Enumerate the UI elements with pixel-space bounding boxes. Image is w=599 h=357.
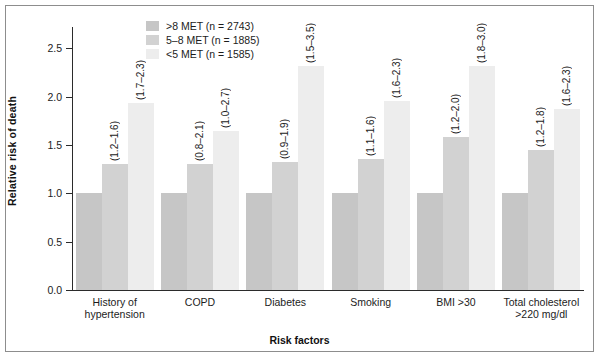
bar[interactable]: (1.2–2.0) <box>443 137 469 290</box>
category-label-line: Total cholesterol <box>499 296 584 308</box>
bar[interactable] <box>502 193 528 290</box>
confidence-interval-label: (0.8–2.1) <box>195 121 205 161</box>
bar[interactable]: (1.7–2.3) <box>128 103 154 290</box>
bar[interactable]: (1.5–3.5) <box>298 66 324 290</box>
x-axis-category-label: Diabetes <box>243 296 328 308</box>
confidence-interval-label: (1.5–3.5) <box>306 23 316 63</box>
x-axis-category-label: Smoking <box>328 296 413 308</box>
confidence-interval-label: (1.8–3.0) <box>477 23 487 63</box>
bar[interactable] <box>76 193 102 290</box>
x-axis-line <box>72 290 584 291</box>
category-label-line: History of <box>72 296 157 308</box>
bar-group: (1.2–2.0)(1.8–3.0) <box>417 27 495 290</box>
y-axis-title: Relative risk of death <box>6 96 18 206</box>
bar[interactable] <box>246 193 272 290</box>
x-axis-category-label: History ofhypertension <box>72 296 157 321</box>
bar[interactable]: (0.9–1.9) <box>272 162 298 290</box>
y-axis-tick-label: 0.5 <box>22 237 62 248</box>
bar[interactable]: (1.2–1.6) <box>102 164 128 290</box>
bar[interactable]: (1.2–1.8) <box>528 150 554 290</box>
category-label-line: >220 mg/dl <box>499 308 584 320</box>
confidence-interval-label: (1.6–2.3) <box>562 66 572 106</box>
confidence-interval-label: (1.0–2.7) <box>221 88 231 128</box>
confidence-interval-label: (1.2–1.6) <box>110 121 120 161</box>
y-axis-tick-label: 1.0 <box>22 188 62 199</box>
bar-group: (1.2–1.8)(1.6–2.3) <box>502 27 580 290</box>
bar-group: (0.8–2.1)(1.0–2.7) <box>161 27 239 290</box>
bar[interactable] <box>161 193 187 290</box>
category-label-line: BMI >30 <box>413 296 498 308</box>
x-axis-category-label: COPD <box>157 296 242 308</box>
figure-container: Relative risk of death 0.00.51.01.52.02.… <box>0 0 599 357</box>
x-axis-category-label: Total cholesterol>220 mg/dl <box>499 296 584 321</box>
bar-group: (0.9–1.9)(1.5–3.5) <box>246 27 324 290</box>
y-axis-tick <box>66 290 72 291</box>
confidence-interval-label: (1.1–1.6) <box>366 116 376 156</box>
y-axis-tick-label: 1.5 <box>22 140 62 151</box>
y-axis-tick-label: 2.0 <box>22 92 62 103</box>
category-label-line: Diabetes <box>243 296 328 308</box>
x-axis-title: Risk factors <box>0 334 599 346</box>
category-label-line: COPD <box>157 296 242 308</box>
category-label-line: Smoking <box>328 296 413 308</box>
x-axis-category-label: BMI >30 <box>413 296 498 308</box>
y-axis-tick-label: 2.5 <box>22 43 62 54</box>
confidence-interval-label: (1.7–2.3) <box>136 60 146 100</box>
y-axis-tick-label: 0.0 <box>22 285 62 296</box>
category-label-line: hypertension <box>72 308 157 320</box>
bar[interactable]: (0.8–2.1) <box>187 164 213 290</box>
bar[interactable]: (1.8–3.0) <box>469 66 495 290</box>
bar[interactable]: (1.6–2.3) <box>384 101 410 290</box>
bar[interactable] <box>332 193 358 290</box>
plot-area: (1.2–1.6)(1.7–2.3)(0.8–2.1)(1.0–2.7)(0.9… <box>72 27 584 290</box>
bar-group: (1.1–1.6)(1.6–2.3) <box>332 27 410 290</box>
confidence-interval-label: (0.9–1.9) <box>280 119 290 159</box>
bar[interactable]: (1.6–2.3) <box>554 109 580 290</box>
bar[interactable]: (1.0–2.7) <box>213 131 239 290</box>
confidence-interval-label: (1.6–2.3) <box>392 58 402 98</box>
bar-group: (1.2–1.6)(1.7–2.3) <box>76 27 154 290</box>
bar[interactable] <box>417 193 443 290</box>
bar[interactable]: (1.1–1.6) <box>358 159 384 290</box>
confidence-interval-label: (1.2–2.0) <box>451 94 461 134</box>
confidence-interval-label: (1.2–1.8) <box>536 107 546 147</box>
